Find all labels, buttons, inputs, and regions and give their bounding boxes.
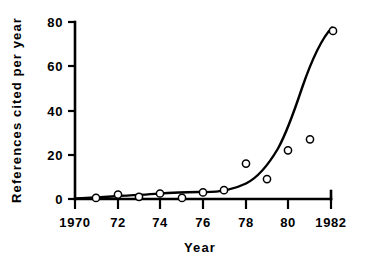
x-axis-title: Year xyxy=(184,240,216,255)
data-point-1977 xyxy=(220,187,227,194)
data-point-1974 xyxy=(156,190,163,197)
data-point-1981 xyxy=(306,136,313,143)
data-point-1973 xyxy=(135,193,142,200)
y-tick-label-40: 40 xyxy=(47,104,63,119)
y-tick-label-60: 60 xyxy=(47,59,63,74)
data-point-1978 xyxy=(242,160,249,167)
data-point-1982 xyxy=(329,27,336,34)
data-point-1972 xyxy=(114,191,121,198)
x-tick-label-1970: 1970 xyxy=(59,215,90,230)
y-tick-label-0: 0 xyxy=(55,192,63,207)
x-tick-label-80: 80 xyxy=(280,215,296,230)
x-axis-ticks xyxy=(75,199,331,209)
x-tick-label-74: 74 xyxy=(152,215,168,230)
data-point-1979 xyxy=(263,176,270,183)
fitted-exponential-curve xyxy=(75,28,332,199)
x-tick-label-1982: 1982 xyxy=(315,215,346,230)
data-point-1975 xyxy=(178,194,185,201)
x-tick-label-76: 76 xyxy=(195,215,211,230)
x-axis-tick-labels: 1970 72 74 76 78 80 1982 xyxy=(59,215,346,230)
chart-figure: 80 60 40 20 0 1970 72 74 76 78 80 1982 xyxy=(0,0,366,269)
scatter-plot: 80 60 40 20 0 1970 72 74 76 78 80 1982 xyxy=(0,0,366,269)
y-tick-label-80: 80 xyxy=(47,15,63,30)
data-point-markers xyxy=(92,27,336,201)
x-tick-label-72: 72 xyxy=(110,215,126,230)
data-point-1980 xyxy=(284,147,291,154)
y-tick-label-20: 20 xyxy=(47,148,63,163)
y-axis-title: References cited per year xyxy=(9,17,24,203)
data-point-1976 xyxy=(199,189,206,196)
x-tick-label-78: 78 xyxy=(238,215,254,230)
y-axis-tick-labels: 80 60 40 20 0 xyxy=(47,15,63,207)
data-point-1971 xyxy=(92,194,99,201)
